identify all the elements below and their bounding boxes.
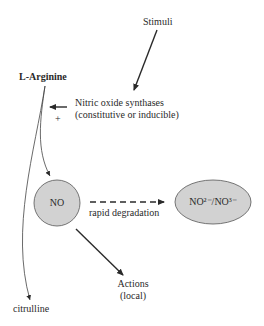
actions-label-line1: Actions [113, 278, 153, 290]
arginine-label: L-Arginine [19, 71, 67, 83]
degradation-label: rapid degradation [89, 207, 159, 219]
arginine-to-no-curve [40, 86, 50, 176]
products-label: NO²⁻/NO³⁻ [175, 196, 251, 208]
enzyme-label-line1: Nitric oxide synthases [75, 97, 164, 109]
citrulline-label: citrulline [13, 303, 49, 315]
actions-label-line2: (local) [113, 290, 153, 302]
stimuli-arrow [134, 30, 157, 90]
no-label: NO [34, 197, 80, 209]
enzyme-label-line2: (constitutive or inducible) [75, 109, 179, 121]
actions-arrow [76, 229, 123, 275]
plus-sign: + [55, 113, 61, 125]
stimuli-label: Stimuli [143, 16, 172, 28]
